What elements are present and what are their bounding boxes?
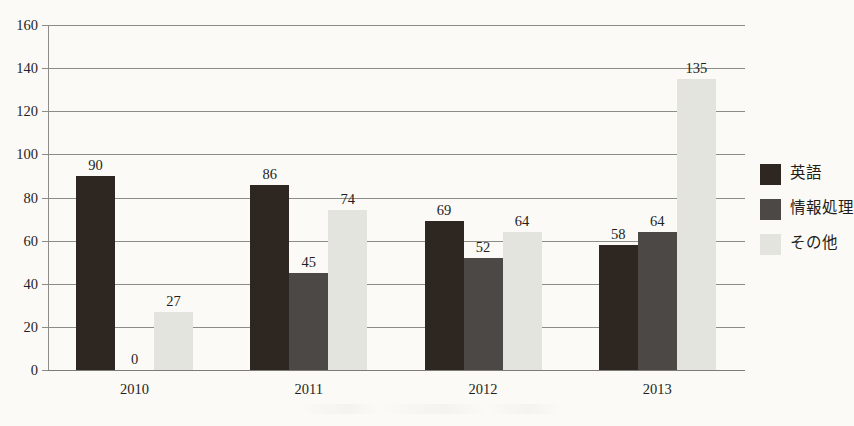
bar-value-label-2013-series1: 64 [638,214,677,229]
bar-value-label-2012-series0: 69 [425,203,464,218]
gridline-120 [48,111,745,112]
x-tick-label-2010: 2010 [76,382,193,397]
legend-item-1[interactable]: 情報処理 [760,198,854,220]
legend-swatch-icon-1 [760,199,781,220]
bar-value-label-2010-series1: 0 [115,352,154,367]
bar-2011-series2 [328,210,367,370]
bar-value-label-2011-series2: 74 [328,192,367,207]
bar-value-label-2013-series0: 58 [599,227,638,242]
legend-item-0[interactable]: 英語 [760,163,854,185]
bar-2012-series1 [464,258,503,370]
y-tick-label-40: 40 [2,277,38,292]
y-tick-label-80: 80 [2,191,38,206]
y-tick-label-160: 160 [2,18,38,33]
y-tick-label-0: 0 [2,363,38,378]
y-tick-label-100: 100 [2,147,38,162]
y-tick-label-60: 60 [2,234,38,249]
bar-2012-series0 [425,221,464,370]
legend-swatch-icon-0 [760,164,781,185]
x-tick-label-2013: 2013 [599,382,716,397]
bar-2011-series0 [250,185,289,370]
bar-value-label-2010-series2: 27 [154,294,193,309]
bar-value-label-2012-series1: 52 [464,240,503,255]
plot-area: 900278645746952645864135 [48,25,745,370]
gridline-100 [48,154,745,155]
bar-value-label-2011-series0: 86 [250,167,289,182]
bar-2013-series2 [677,79,716,370]
gridline-80 [48,198,745,199]
chart-legend: 英語 情報処理 その他 [760,163,854,268]
legend-item-2[interactable]: その他 [760,233,854,255]
bar-2013-series0 [599,245,638,370]
page-bleed-artifact [300,404,560,414]
bar-value-label-2013-series2: 135 [677,61,716,76]
x-tick-label-2012: 2012 [425,382,542,397]
bar-2010-series2 [154,312,193,370]
bar-2012-series2 [503,232,542,370]
legend-swatch-icon-2 [760,234,781,255]
y-tick-label-140: 140 [2,61,38,76]
bar-value-label-2011-series1: 45 [289,255,328,270]
legend-label-1: 情報処理 [790,201,854,217]
bar-2010-series0 [76,176,115,370]
legend-label-2: その他 [790,236,838,252]
bar-2013-series1 [638,232,677,370]
x-tick-label-2011: 2011 [250,382,367,397]
gridline-140 [48,68,745,69]
legend-label-0: 英語 [790,166,822,182]
bar-value-label-2010-series0: 90 [76,158,115,173]
y-tick-label-20: 20 [2,320,38,335]
bar-value-label-2012-series2: 64 [503,214,542,229]
y-tick-label-120: 120 [2,104,38,119]
gridline-160 [48,25,745,26]
bar-2011-series1 [289,273,328,370]
gridline-0 [48,370,745,371]
